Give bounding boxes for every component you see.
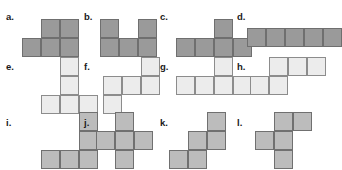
shape-cell-empty xyxy=(176,19,195,38)
shape-cell-filled xyxy=(60,38,79,57)
shape-cell-empty xyxy=(119,19,138,38)
shape-cell-empty xyxy=(134,150,153,169)
shape-cell-filled xyxy=(103,76,122,95)
shape-cell-filled xyxy=(100,38,119,57)
shape-cell-empty xyxy=(293,131,312,150)
shape-cell-empty xyxy=(307,76,326,95)
shape-cell-filled xyxy=(41,19,60,38)
shape-cell-empty xyxy=(207,150,226,169)
shape-cell-empty xyxy=(255,150,274,169)
shape-cell-filled xyxy=(134,131,153,150)
shape-cell-filled xyxy=(269,57,288,76)
shape-cell-filled xyxy=(138,38,157,57)
shape-cell-filled xyxy=(274,131,293,150)
shape-cell-empty xyxy=(79,76,98,95)
shape-cell-filled xyxy=(41,38,60,57)
shape-cell-empty xyxy=(169,131,188,150)
shape-cell-empty xyxy=(60,131,79,150)
shape-grid-c xyxy=(176,19,252,57)
shape-label-e: e. xyxy=(6,62,14,72)
shape-cell-filled xyxy=(169,150,188,169)
shape-cell-filled xyxy=(247,28,266,47)
shape-label-f: f. xyxy=(84,62,90,72)
shape-cell-filled xyxy=(214,38,233,57)
shape-cell-empty xyxy=(103,57,122,76)
shape-grid-j xyxy=(96,112,153,169)
shape-cell-filled xyxy=(274,112,293,131)
shape-cell-filled xyxy=(100,19,119,38)
shape-cell-filled xyxy=(195,76,214,95)
shape-cell-empty xyxy=(176,57,195,76)
shape-grid-i xyxy=(41,112,98,169)
shape-cell-filled xyxy=(60,19,79,38)
shape-cell-filled xyxy=(176,76,195,95)
shape-cell-empty xyxy=(122,57,141,76)
shape-label-j: j. xyxy=(84,118,89,128)
shape-label-k: k. xyxy=(160,118,168,128)
shape-cell-filled xyxy=(115,112,134,131)
shape-cell-filled xyxy=(60,150,79,169)
shape-cell-filled xyxy=(288,57,307,76)
shape-cell-filled xyxy=(266,28,285,47)
shape-cell-empty xyxy=(96,150,115,169)
shape-cell-filled xyxy=(274,150,293,169)
shape-label-a: a. xyxy=(6,12,14,22)
shape-cell-filled xyxy=(176,38,195,57)
shape-cell-filled xyxy=(195,38,214,57)
shape-cell-filled xyxy=(141,57,160,76)
shape-cell-filled xyxy=(323,28,342,47)
shape-grid-f xyxy=(103,57,160,114)
shape-cell-empty xyxy=(250,57,269,76)
shape-label-i: i. xyxy=(6,118,11,128)
shape-cell-filled xyxy=(207,131,226,150)
shape-cell-filled xyxy=(119,38,138,57)
shape-cell-empty xyxy=(169,112,188,131)
shape-cell-filled xyxy=(96,131,115,150)
shape-cell-empty xyxy=(60,112,79,131)
shape-cell-empty xyxy=(41,131,60,150)
shape-cell-filled xyxy=(188,150,207,169)
shape-cell-filled xyxy=(293,112,312,131)
shape-cell-filled xyxy=(115,131,134,150)
shape-cell-empty xyxy=(195,57,214,76)
shape-label-l: l. xyxy=(237,118,242,128)
shape-label-h: h. xyxy=(237,62,245,72)
shape-cell-filled xyxy=(122,76,141,95)
shape-cell-empty xyxy=(41,57,60,76)
shape-cell-empty xyxy=(96,112,115,131)
shape-cell-filled xyxy=(269,76,288,95)
shape-label-d: d. xyxy=(237,12,245,22)
shape-grid-d xyxy=(247,28,342,47)
shape-cell-filled xyxy=(214,19,233,38)
shape-grid-b xyxy=(100,19,157,57)
shape-grid-a xyxy=(22,19,79,57)
shape-cell-empty xyxy=(134,112,153,131)
shape-label-b: b. xyxy=(84,12,92,22)
shape-cell-filled xyxy=(138,19,157,38)
shape-cell-empty xyxy=(188,112,207,131)
shape-label-g: g. xyxy=(160,62,168,72)
shape-cell-filled xyxy=(60,57,79,76)
shape-grid-k xyxy=(169,112,226,169)
shape-cell-filled xyxy=(250,76,269,95)
shape-grid-l xyxy=(255,112,312,169)
shape-cell-filled xyxy=(285,28,304,47)
shape-cell-filled xyxy=(207,112,226,131)
shape-cell-empty xyxy=(41,112,60,131)
shape-cell-filled xyxy=(304,28,323,47)
shape-cell-filled xyxy=(255,131,274,150)
shape-cell-empty xyxy=(41,76,60,95)
shape-cell-filled xyxy=(141,76,160,95)
shape-cell-filled xyxy=(214,57,233,76)
shape-cell-empty xyxy=(293,150,312,169)
shape-cell-filled xyxy=(188,131,207,150)
shape-cell-filled xyxy=(41,150,60,169)
shape-cell-filled xyxy=(22,38,41,57)
shape-label-c: c. xyxy=(160,12,168,22)
shape-cell-empty xyxy=(288,76,307,95)
shape-cell-empty xyxy=(195,19,214,38)
shape-cell-filled xyxy=(115,150,134,169)
shape-cell-filled xyxy=(307,57,326,76)
shape-cell-filled xyxy=(60,76,79,95)
